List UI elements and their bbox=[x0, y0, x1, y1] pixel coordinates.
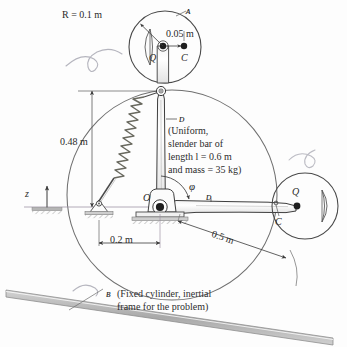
bar-note-line-2: slender bar of bbox=[168, 138, 223, 151]
label-radius: R = 0.1 m bbox=[62, 9, 102, 21]
spring-strut bbox=[99, 92, 159, 202]
label-point-q-right: Q bbox=[292, 186, 299, 198]
spring-base-support bbox=[85, 200, 113, 218]
annotation-curl-right bbox=[289, 150, 315, 168]
annotation-curl-top bbox=[66, 49, 122, 71]
label-point-c-right: C bbox=[275, 216, 282, 228]
dimension-height bbox=[78, 91, 163, 207]
label-point-c-top: C bbox=[181, 52, 188, 64]
z-axis-indicator bbox=[32, 186, 62, 214]
bar-note-line-3: length l = 0.6 m bbox=[168, 151, 232, 164]
pivot-O-assembly bbox=[132, 189, 188, 248]
label-body-d-bar: ᴅ bbox=[206, 190, 212, 203]
label-height: 0.48 m bbox=[60, 136, 88, 148]
bar-note-line-4: and mass = 35 kg) bbox=[168, 164, 241, 177]
label-point-q-top: Q bbox=[149, 52, 156, 64]
bar-note-line-1: (Uniform, bbox=[168, 125, 208, 138]
top-pin-joint bbox=[156, 86, 165, 95]
engineering-figure: R = 0.1 m ᴀ 0.05 m Q C 0.48 m ᴅ (Uniform… bbox=[0, 0, 347, 347]
cylinder-note-line-1: (Fixed cylinder, inertial bbox=[117, 288, 211, 301]
label-point-o: O bbox=[143, 192, 150, 204]
label-body-b: ʙ bbox=[106, 287, 111, 300]
label-base-offset: 0.2 m bbox=[110, 234, 133, 246]
label-offset-qc: 0.05 m bbox=[166, 28, 194, 40]
label-angle-phi: φ bbox=[189, 180, 195, 193]
label-axis-z: z bbox=[25, 188, 29, 200]
cylinder-note-line-2: frame for the problem) bbox=[117, 301, 208, 314]
label-body-d-top: ᴅ bbox=[179, 112, 185, 125]
label-body-a: ᴀ bbox=[186, 4, 190, 17]
top-disc-A bbox=[129, 11, 201, 83]
